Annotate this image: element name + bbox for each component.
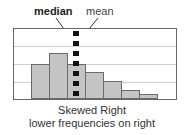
histogram-bar: [85, 72, 104, 99]
median-mean-line: [73, 31, 79, 99]
histogram-bar: [139, 94, 158, 99]
chart-title: Skewed Right: [0, 104, 184, 117]
histogram-bar: [121, 90, 140, 99]
chart-subtitle: lower frequencies on right: [0, 117, 184, 130]
histogram-bar: [103, 81, 122, 99]
histogram-bar: [31, 64, 50, 99]
histogram-bar: [49, 53, 68, 99]
gridline: [14, 46, 176, 47]
histogram-plot: [13, 28, 177, 100]
